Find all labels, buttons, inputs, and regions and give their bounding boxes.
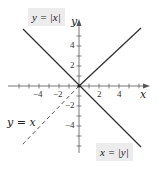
graph-canvas <box>0 0 159 172</box>
x-tick-label: 2 <box>97 89 102 99</box>
y-tick-label: −4 <box>65 120 75 130</box>
label-y-equals-abs-x: y = |x| <box>28 8 65 26</box>
x-tick-label: 4 <box>117 89 122 99</box>
y-tick-label: 2 <box>70 60 75 70</box>
graph-figure: y = |x| x = |y| y = x x y −4 −2 2 4 4 2 … <box>0 0 159 172</box>
solid-curves <box>23 28 141 147</box>
y-tick-label: −2 <box>65 100 75 110</box>
y-tick-label: 4 <box>70 40 75 50</box>
y-axis-label: y <box>71 15 77 28</box>
x-axis-label: x <box>140 88 146 101</box>
x-tick-label: −2 <box>53 89 63 99</box>
label-x-equals-abs-y: x = |y| <box>96 143 133 161</box>
x-tick-label: −4 <box>33 89 43 99</box>
label-y-equals-x: y = x <box>7 116 36 129</box>
